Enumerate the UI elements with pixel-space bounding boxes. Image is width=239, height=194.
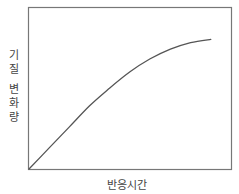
plot-frame	[29, 8, 232, 170]
chart-plot	[0, 0, 239, 194]
y-axis-label-char: 화	[9, 98, 19, 112]
y-axis-label-char: 기	[9, 50, 19, 64]
data-curve	[29, 39, 211, 169]
y-axis-label-char: 질	[9, 64, 19, 78]
y-axis-label: 기 질 변 화 량	[6, 50, 22, 126]
x-axis-label: 반응시간	[0, 176, 239, 192]
y-axis-label-char: 량	[9, 112, 19, 126]
y-axis-label-char: 변	[9, 84, 19, 98]
